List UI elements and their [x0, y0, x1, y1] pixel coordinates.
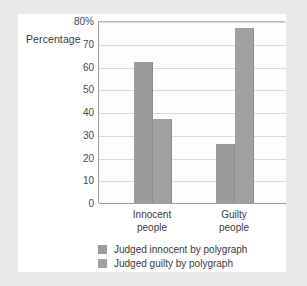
gridline	[99, 113, 286, 114]
gridline	[99, 159, 286, 160]
bar	[235, 28, 254, 203]
x-tick-label-line: people	[189, 222, 279, 235]
gridline	[99, 136, 286, 137]
gridline	[99, 68, 286, 69]
gridline	[99, 22, 286, 23]
legend-item[interactable]: Judged innocent by polygraph	[98, 243, 247, 256]
bar	[134, 62, 153, 203]
gridline	[99, 45, 286, 46]
y-tick-label: 10	[54, 175, 94, 186]
y-tick-label: 80%	[54, 16, 94, 27]
chart-legend: Judged innocent by polygraphJudged guilt…	[98, 243, 247, 271]
x-tick-label-line: people	[107, 222, 197, 235]
x-tick-label: Innocentpeople	[107, 209, 197, 234]
y-tick-label: 20	[54, 152, 94, 163]
x-tick-label: Guiltypeople	[189, 209, 279, 234]
x-tick-label-line: Innocent	[107, 209, 197, 222]
legend-swatch-icon	[98, 259, 107, 268]
legend-label: Judged guilty by polygraph	[114, 257, 233, 270]
y-tick-label: 40	[54, 107, 94, 118]
plot-area	[98, 21, 285, 203]
y-tick-label: 0	[54, 198, 94, 209]
y-tick-label: 60	[54, 61, 94, 72]
y-tick-label: 70	[54, 38, 94, 49]
bar-chart-figure: Percentage 80%706050403020100 Innocentpe…	[0, 0, 307, 286]
gridline	[99, 90, 286, 91]
legend-swatch-icon	[98, 245, 107, 254]
gridline	[99, 181, 286, 182]
bar	[153, 119, 172, 203]
legend-label: Judged innocent by polygraph	[114, 243, 247, 256]
y-tick-label: 30	[54, 129, 94, 140]
y-tick-label: 50	[54, 84, 94, 95]
legend-item[interactable]: Judged guilty by polygraph	[98, 257, 247, 270]
bar	[216, 144, 235, 203]
x-axis-baseline	[99, 203, 286, 204]
x-tick-label-line: Guilty	[189, 209, 279, 222]
